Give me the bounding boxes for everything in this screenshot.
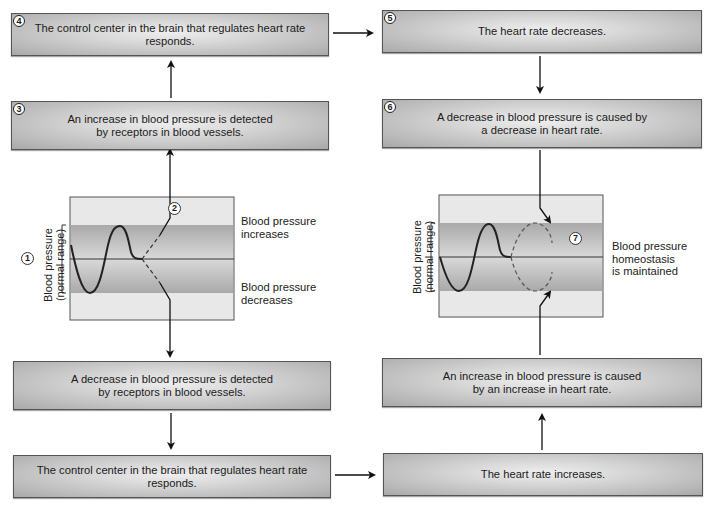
right-graph-axis-label: Blood pressure (normal range) bbox=[411, 212, 437, 302]
heart-rate-increases-text: The heart rate increases. bbox=[481, 468, 605, 481]
step-5-text: The heart rate decreases. bbox=[478, 25, 606, 38]
step-6-box: 6 A decrease in blood pressure is caused… bbox=[382, 99, 702, 148]
step-number-badge: 6 bbox=[384, 101, 396, 113]
step-7-badge: 7 bbox=[569, 232, 582, 245]
increase-caused-box: An increase in blood pressure is caused … bbox=[382, 358, 702, 407]
decrease-detected-box: A decrease in blood pressure is detected… bbox=[13, 361, 331, 410]
step-4-box: 4 The control center in the brain that r… bbox=[11, 13, 329, 56]
step-number-badge: 4 bbox=[13, 15, 25, 27]
step-6-text: A decrease in blood pressure is caused b… bbox=[437, 111, 647, 137]
step-number-badge: 3 bbox=[13, 103, 25, 115]
control-center-responds-box: The control center in the brain that reg… bbox=[13, 455, 331, 498]
right-graph bbox=[431, 150, 603, 355]
label-bp-increases: Blood pressure increases bbox=[241, 215, 316, 240]
left-graph bbox=[62, 150, 234, 356]
decrease-detected-text: A decrease in blood pressure is detected… bbox=[71, 373, 273, 399]
heart-rate-increases-box: The heart rate increases. bbox=[383, 453, 703, 496]
increase-caused-text: An increase in blood pressure is caused … bbox=[443, 370, 641, 396]
step-number-badge: 5 bbox=[384, 12, 396, 24]
left-graph-axis-label: Blood pressure (normal range) bbox=[42, 220, 68, 310]
step-2-badge: 2 bbox=[168, 202, 181, 215]
step-3-text: An increase in blood pressure is detecte… bbox=[67, 113, 272, 139]
step-4-text: The control center in the brain that reg… bbox=[22, 22, 318, 48]
step-3-box: 3 An increase in blood pressure is detec… bbox=[11, 101, 329, 150]
label-bp-decreases: Blood pressure decreases bbox=[241, 281, 316, 306]
step-5-box: 5 The heart rate decreases. bbox=[382, 10, 702, 53]
step-1-badge: 1 bbox=[21, 252, 34, 265]
label-homeostasis-maintained: Blood pressure homeostasis is maintained bbox=[612, 240, 687, 278]
control-center-responds-text: The control center in the brain that reg… bbox=[24, 464, 320, 490]
connector-arrows bbox=[0, 0, 709, 510]
